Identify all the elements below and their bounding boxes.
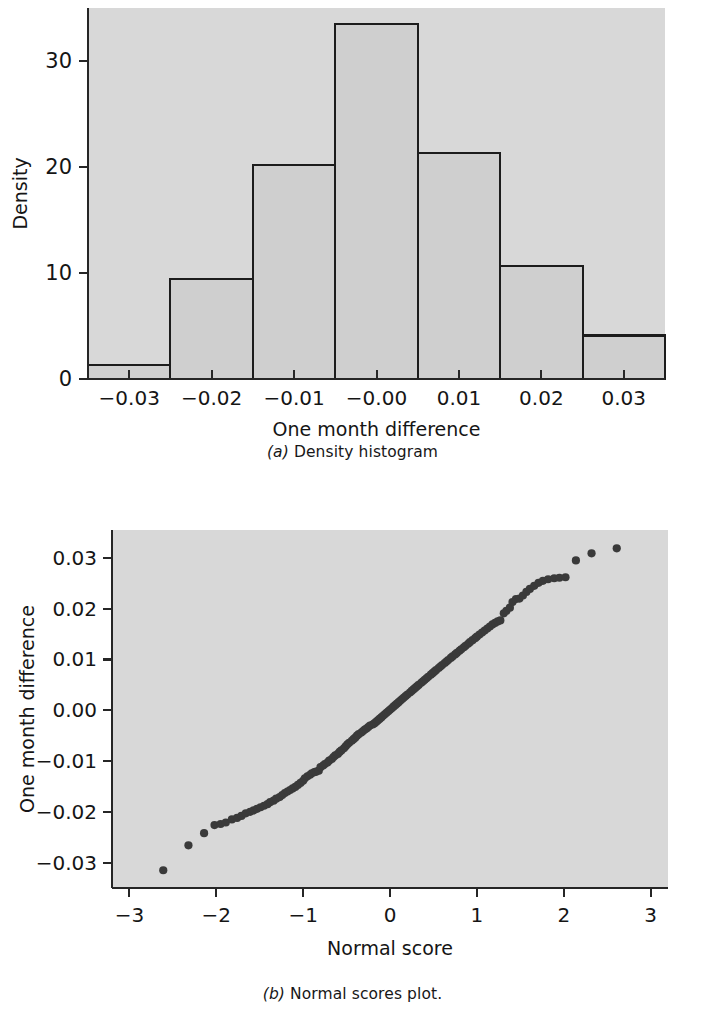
y-axis-tick-label: 10 <box>45 261 72 285</box>
normal-scores-svg: −0.03−0.02−0.010.000.010.020.03−3−2−1012… <box>0 490 705 1036</box>
y-axis-label: One month difference <box>16 605 38 813</box>
figure-panel-group: 0102030−0.03−0.02−0.01−0.000.010.020.03O… <box>0 0 705 1036</box>
scatter-point <box>561 573 569 581</box>
caption-b-label: (b) <box>263 985 285 1003</box>
scatter-point <box>587 549 595 557</box>
x-axis-tick-label: 0.03 <box>602 386 647 410</box>
x-axis-tick-label: 0 <box>384 903 397 927</box>
density-histogram-svg: 0102030−0.03−0.02−0.01−0.000.010.020.03O… <box>0 0 705 488</box>
histogram-bar <box>418 153 500 379</box>
y-axis-tick-label: −0.03 <box>36 851 97 875</box>
x-axis-tick-label: −3 <box>115 903 144 927</box>
caption-b-text: Normal scores plot. <box>285 985 442 1003</box>
histogram-bar <box>170 279 252 379</box>
x-axis-tick-label: −2 <box>202 903 231 927</box>
density-histogram-panel: 0102030−0.03−0.02−0.01−0.000.010.020.03O… <box>0 0 705 488</box>
x-axis-tick-label: −0.02 <box>181 386 242 410</box>
histogram-bar <box>335 24 417 379</box>
y-axis-tick-label: 0.02 <box>52 597 97 621</box>
y-axis-tick-label: −0.02 <box>36 800 97 824</box>
y-axis-tick-label: 0.00 <box>52 698 97 722</box>
scatter-point <box>613 544 621 552</box>
scatter-point <box>572 556 580 564</box>
x-axis-label: Normal score <box>327 937 453 959</box>
histogram-bar <box>253 165 335 379</box>
x-axis-label: One month difference <box>273 418 481 440</box>
x-axis-tick-label: 3 <box>644 903 657 927</box>
histogram-bar <box>500 266 582 379</box>
y-axis-label: Density <box>9 157 31 229</box>
x-axis-tick-label: −0.00 <box>346 386 407 410</box>
y-axis-tick-label: 20 <box>45 155 72 179</box>
scatter-point <box>184 841 192 849</box>
x-axis-tick-label: 0.02 <box>519 386 564 410</box>
x-axis-tick-label: −1 <box>288 903 317 927</box>
y-axis-tick-label: −0.01 <box>36 749 97 773</box>
y-axis-tick-label: 0 <box>59 367 72 391</box>
x-axis-tick-label: 0.01 <box>437 386 482 410</box>
x-axis-tick-label: 2 <box>557 903 570 927</box>
y-axis-tick-label: 30 <box>45 49 72 73</box>
x-axis-tick-label: −0.03 <box>99 386 160 410</box>
x-axis-tick-label: 1 <box>471 903 484 927</box>
caption-a-text: Density histogram <box>289 443 438 461</box>
caption-a-label: (a) <box>267 443 289 461</box>
normal-scores-panel: −0.03−0.02−0.010.000.010.020.03−3−2−1012… <box>0 490 705 1036</box>
caption-panel-a: (a) Density histogram <box>0 443 705 461</box>
cropped-text-sliver <box>0 1028 705 1036</box>
x-axis-tick-label: −0.01 <box>263 386 324 410</box>
y-axis-tick-label: 0.01 <box>52 647 97 671</box>
scatter-point <box>496 616 504 624</box>
y-axis-tick-label: 0.03 <box>52 546 97 570</box>
scatter-point <box>159 866 167 874</box>
scatter-point <box>200 829 208 837</box>
caption-panel-b: (b) Normal scores plot. <box>0 985 705 1003</box>
